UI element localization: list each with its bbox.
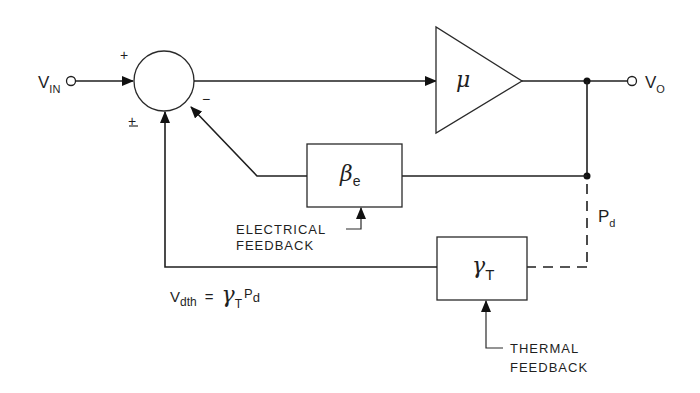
amplifier: μ — [436, 27, 522, 133]
summing-circle — [134, 51, 194, 111]
beta-block: βe — [307, 144, 402, 207]
amplifier-triangle — [436, 27, 522, 133]
electrical-feedback-caption-1: ELECTRICAL — [236, 222, 326, 237]
minus-sign: − — [202, 91, 210, 107]
thermal-feedback-pointer — [486, 301, 503, 348]
thermal-feedback-caption-2: FEEDBACK — [510, 360, 588, 375]
vin-label: VIN — [38, 73, 60, 95]
pd-label: Pd — [598, 207, 615, 229]
electrical-feedback-pointer — [346, 208, 361, 229]
electrical-feedback-caption-2: FEEDBACK — [236, 238, 314, 253]
electrical-feedback-wire-left — [191, 107, 307, 176]
vdth-equation: Vdth=γTPd — [170, 282, 260, 311]
vo-label: VO — [645, 73, 665, 95]
thermal-feedback-caption-1: THERMAL — [510, 341, 579, 356]
input-terminal: VIN — [38, 73, 133, 95]
gamma-block: γT — [437, 237, 527, 300]
mu-symbol: μ — [456, 67, 470, 92]
plus-sign: + — [120, 47, 128, 63]
input-terminal-circle — [67, 77, 76, 86]
feedback-block-diagram: VIN + − + μ VO βe ELECTRICAL FEEDBACK Pd — [0, 0, 700, 393]
output-terminal-circle — [628, 77, 637, 86]
